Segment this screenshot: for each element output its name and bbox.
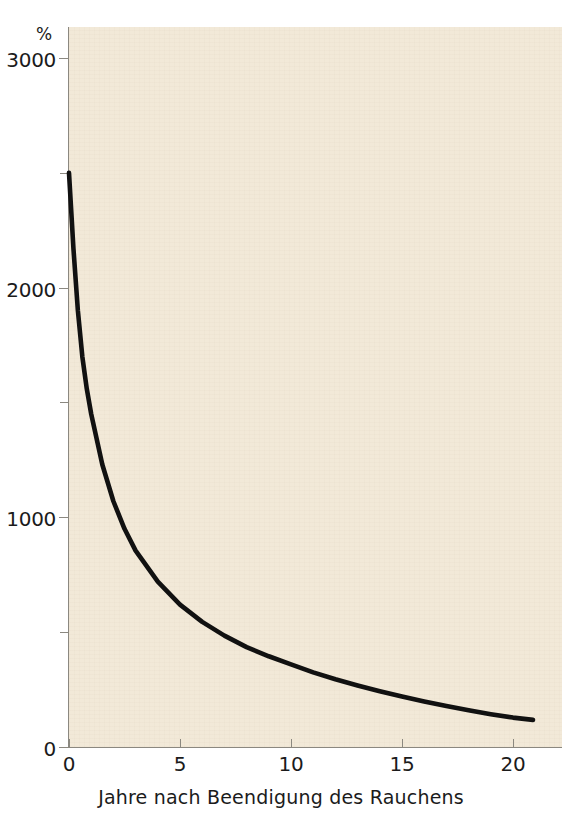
curve-layer [0,0,562,815]
decay-curve [69,173,533,720]
chart-figure: 3000 2000 1000 0 % 0 5 10 15 20 Jahre na… [0,0,562,815]
